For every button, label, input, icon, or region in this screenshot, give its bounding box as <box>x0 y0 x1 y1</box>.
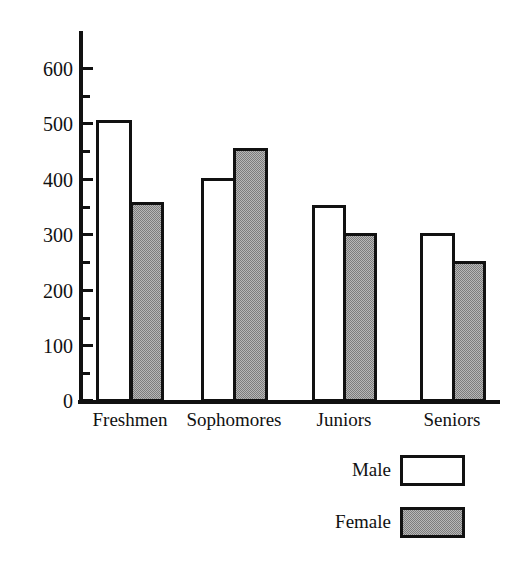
y-tick-label-500: 500 <box>43 113 73 135</box>
bar-juniors-male <box>314 206 345 400</box>
chart-legend: Male Female <box>335 457 463 537</box>
legend-swatch-female <box>402 509 464 537</box>
y-tick-label-300: 300 <box>43 224 73 246</box>
legend-entry-female: Female <box>335 509 463 537</box>
cat-label-seniors: Seniors <box>424 409 481 430</box>
bar-group-juniors <box>314 206 376 400</box>
bar-group-seniors <box>422 234 485 400</box>
bar-group-freshmen <box>98 121 163 400</box>
y-tick-label-600: 600 <box>43 58 73 80</box>
y-tick-label-400: 400 <box>43 169 73 191</box>
cat-label-juniors: Juniors <box>317 409 372 430</box>
bar-freshmen-male <box>98 121 131 400</box>
y-tick-label-200: 200 <box>43 280 73 302</box>
bar-sophomores-male <box>203 179 235 400</box>
chart-canvas: 600 500 400 300 200 100 0 <box>0 0 511 565</box>
bar-freshmen-female <box>132 203 163 400</box>
legend-swatch-male <box>402 457 464 485</box>
legend-entry-male: Male <box>352 457 464 485</box>
y-tick-label-0: 0 <box>63 390 73 412</box>
cat-label-sophomores: Sophomores <box>187 409 282 430</box>
bar-seniors-female <box>454 262 485 400</box>
bar-seniors-male <box>422 234 454 400</box>
x-axis-category-labels: Freshmen Sophomores Juniors Seniors <box>93 409 481 430</box>
bar-chart-figure: 600 500 400 300 200 100 0 <box>0 0 511 565</box>
legend-label-female: Female <box>335 511 391 532</box>
bar-juniors-female <box>345 234 376 400</box>
y-axis-tick-labels: 600 500 400 300 200 100 0 <box>43 58 73 412</box>
y-tick-label-100: 100 <box>43 335 73 357</box>
bar-group-sophomores <box>203 149 267 400</box>
cat-label-freshmen: Freshmen <box>93 409 168 430</box>
legend-label-male: Male <box>352 459 391 480</box>
bar-sophomores-female <box>235 149 267 400</box>
